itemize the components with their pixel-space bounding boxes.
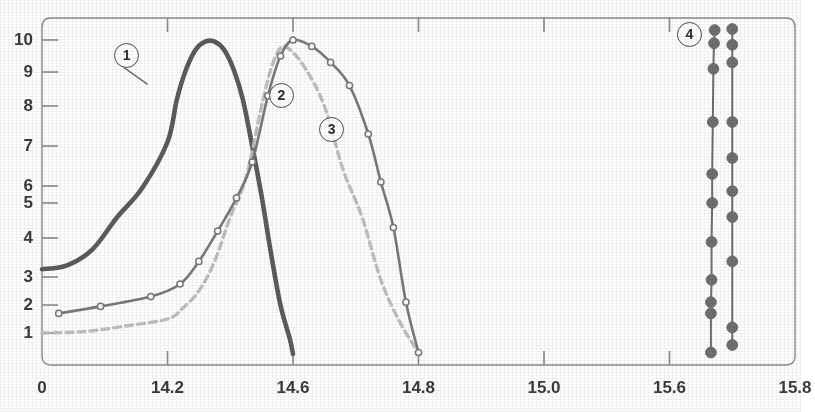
y-tick-label: 9 xyxy=(0,63,33,80)
series-4a xyxy=(706,25,721,358)
callout-4: 4 xyxy=(677,22,702,47)
callout-1: 1 xyxy=(114,43,139,68)
axis-ticks xyxy=(42,18,670,365)
y-tick-label: 2 xyxy=(0,296,33,313)
x-tick-label: 15.8 xyxy=(755,379,815,396)
y-tick-label: 10 xyxy=(0,31,33,48)
x-tick-label: 15.0 xyxy=(504,379,584,396)
y-tick-label: 7 xyxy=(0,137,33,154)
series-4b xyxy=(727,24,738,351)
y-tick-label: 8 xyxy=(0,97,33,114)
y-tick-label: 6 xyxy=(0,177,33,194)
axis-frame xyxy=(42,18,795,365)
y-tick-label: 4 xyxy=(0,229,33,246)
callout-2: 2 xyxy=(269,83,294,108)
series-layer xyxy=(42,24,738,358)
y-tick-label: 1 xyxy=(0,324,33,341)
x-tick-label: 14.8 xyxy=(379,379,459,396)
callout-3: 3 xyxy=(319,117,344,142)
x-tick-label: 0 xyxy=(2,379,82,396)
y-tick-label: 3 xyxy=(0,268,33,285)
x-tick-label: 15.6 xyxy=(630,379,710,396)
x-tick-label: 14.2 xyxy=(128,379,208,396)
x-tick-label: 14.6 xyxy=(253,379,333,396)
callout-leader-lines xyxy=(124,67,148,84)
series-1 xyxy=(42,41,293,354)
y-tick-label: 5 xyxy=(0,194,33,211)
